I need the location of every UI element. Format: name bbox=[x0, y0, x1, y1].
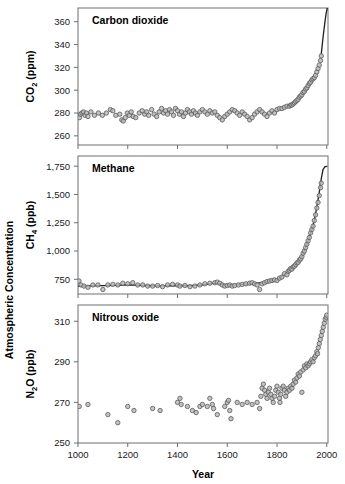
data-point bbox=[235, 400, 239, 404]
y-tick-label: 1,500 bbox=[46, 189, 70, 200]
x-tick-label: 1000 bbox=[67, 449, 88, 460]
data-point bbox=[96, 283, 100, 287]
data-point bbox=[170, 282, 174, 286]
y-tick-label: 280 bbox=[54, 107, 70, 118]
data-point bbox=[313, 213, 317, 217]
data-point bbox=[255, 283, 259, 287]
data-point bbox=[106, 412, 110, 416]
x-tick-label: 1200 bbox=[117, 449, 138, 460]
y-tick-label: 1,000 bbox=[46, 245, 70, 256]
data-point bbox=[178, 396, 182, 400]
data-point bbox=[136, 283, 140, 287]
data-point bbox=[89, 110, 93, 114]
data-point bbox=[307, 235, 311, 239]
data-point bbox=[155, 283, 159, 287]
data-point bbox=[129, 110, 133, 114]
data-point bbox=[267, 386, 271, 390]
data-point bbox=[311, 224, 315, 228]
data-point bbox=[226, 398, 230, 402]
data-point bbox=[179, 402, 183, 406]
y-tick-label: 340 bbox=[54, 39, 70, 50]
plot-frame bbox=[78, 156, 328, 294]
data-point bbox=[126, 404, 130, 408]
data-point bbox=[257, 406, 261, 410]
data-point bbox=[318, 58, 322, 62]
data-point bbox=[316, 200, 320, 204]
y-tick-label: 260 bbox=[54, 130, 70, 141]
data-point bbox=[250, 402, 254, 406]
data-point bbox=[158, 408, 162, 412]
data-point bbox=[193, 284, 197, 288]
data-point bbox=[228, 408, 232, 412]
y-tick-label: 290 bbox=[54, 356, 70, 367]
data-point bbox=[261, 382, 265, 386]
data-point bbox=[223, 404, 227, 408]
chart-panel-3: 250270290310100012001400160018002000N2O … bbox=[24, 305, 337, 460]
data-point bbox=[183, 283, 187, 287]
y-tick-label: 1,750 bbox=[46, 161, 70, 172]
panel-y-axis-title: CH4 (ppb) bbox=[24, 201, 39, 250]
plot-frame bbox=[78, 8, 328, 145]
data-point bbox=[215, 412, 219, 416]
data-point bbox=[271, 400, 275, 404]
data-point bbox=[131, 280, 135, 284]
x-tick-label: 1400 bbox=[167, 449, 188, 460]
x-axis-title: Year bbox=[192, 468, 214, 480]
data-point bbox=[185, 404, 189, 408]
data-point bbox=[91, 283, 95, 287]
data-point bbox=[178, 284, 182, 288]
data-point bbox=[265, 396, 269, 400]
data-point bbox=[278, 400, 282, 404]
data-point bbox=[194, 410, 198, 414]
data-point bbox=[319, 181, 323, 185]
y-tick-label: 250 bbox=[54, 437, 70, 448]
x-tick-label: 1800 bbox=[266, 449, 287, 460]
y-tick-label: 750 bbox=[54, 274, 70, 285]
data-point bbox=[118, 112, 122, 116]
data-point bbox=[134, 115, 138, 119]
panel-y-axis-title: CO2 (ppm) bbox=[24, 51, 39, 103]
data-point bbox=[140, 283, 144, 287]
data-point bbox=[150, 406, 154, 410]
data-point bbox=[208, 281, 212, 285]
data-point bbox=[272, 394, 276, 398]
y-tick-label: 320 bbox=[54, 62, 70, 73]
data-point bbox=[275, 384, 279, 388]
data-point bbox=[188, 284, 192, 288]
y-tick-label: 1,250 bbox=[46, 217, 70, 228]
data-point bbox=[154, 114, 158, 118]
data-point bbox=[257, 287, 261, 291]
data-point bbox=[315, 206, 319, 210]
data-point bbox=[121, 281, 125, 285]
data-point bbox=[116, 283, 120, 287]
data-point bbox=[279, 392, 283, 396]
data-point bbox=[211, 406, 215, 410]
data-point bbox=[205, 404, 209, 408]
y-tick-label: 300 bbox=[54, 85, 70, 96]
data-point bbox=[312, 218, 316, 222]
data-point bbox=[104, 111, 108, 115]
panel-y-axis-title: N2O (ppb) bbox=[24, 349, 39, 398]
data-point bbox=[126, 282, 130, 286]
chart-panel-2: 7501,0001,2501,5001,750CH4 (ppb)Methane bbox=[24, 156, 328, 298]
data-point bbox=[86, 114, 90, 118]
data-point bbox=[315, 352, 319, 356]
data-point bbox=[229, 416, 233, 420]
data-point bbox=[86, 285, 90, 289]
x-tick-label: 1600 bbox=[217, 449, 238, 460]
data-point bbox=[111, 109, 115, 113]
x-tick-label: 2000 bbox=[316, 449, 337, 460]
outer-y-axis-label: Atmospheric Concentration bbox=[3, 221, 15, 359]
data-point bbox=[208, 396, 212, 400]
data-point bbox=[300, 390, 304, 394]
data-point bbox=[319, 54, 323, 58]
data-point bbox=[86, 402, 90, 406]
data-point bbox=[245, 400, 249, 404]
data-point bbox=[160, 284, 164, 288]
data-point bbox=[317, 193, 321, 197]
data-point bbox=[111, 282, 115, 286]
data-point bbox=[259, 394, 263, 398]
climate-greenhouse-gas-figure: Atmospheric Concentration Year 260280300… bbox=[0, 0, 345, 484]
data-point bbox=[165, 283, 169, 287]
data-point bbox=[116, 421, 120, 425]
